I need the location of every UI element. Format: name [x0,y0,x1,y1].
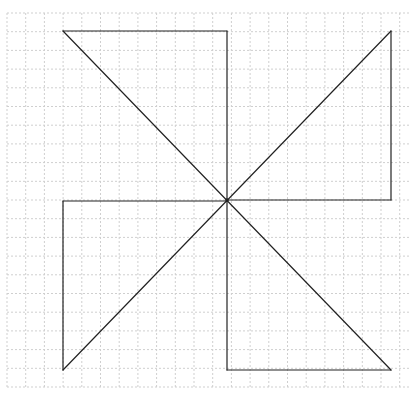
pinwheel-figure [63,31,391,370]
center-point [225,198,229,202]
pinwheel-diagram [0,0,416,401]
